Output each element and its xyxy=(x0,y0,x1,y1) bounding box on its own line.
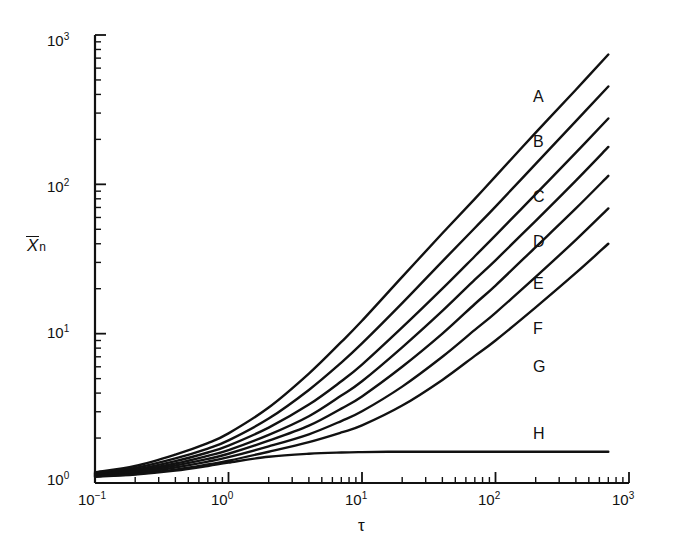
x-tick-label-0: 10−1 xyxy=(78,491,106,508)
y-axis-title-base: X xyxy=(26,236,39,255)
curve-label-A: A xyxy=(533,88,544,106)
curve-C xyxy=(95,118,608,473)
x-tick-label-3: 102 xyxy=(478,491,500,508)
curve-label-H: H xyxy=(533,425,545,443)
curve-label-C: C xyxy=(533,188,545,206)
y-tick-label-1: 101 xyxy=(47,324,69,341)
y-tick-label-3: 103 xyxy=(47,32,69,49)
y-axis-title-subscript: n xyxy=(39,240,46,254)
curve-label-G: G xyxy=(533,358,545,376)
y-tick-label-2: 102 xyxy=(47,178,69,195)
log-log-plot xyxy=(0,0,674,555)
x-axis-title: τ xyxy=(358,516,365,536)
curve-label-E: E xyxy=(533,275,544,293)
x-tick-label-1: 100 xyxy=(211,491,233,508)
curve-label-B: B xyxy=(533,133,544,151)
x-tick-label-2: 101 xyxy=(345,491,367,508)
chart-figure: Xn τ 10−1100101102103100101102103ABCDEFG… xyxy=(0,0,674,555)
x-tick-label-4: 103 xyxy=(612,491,634,508)
y-tick-label-0: 100 xyxy=(47,471,69,488)
curve-G xyxy=(95,244,608,476)
curve-label-D: D xyxy=(533,233,545,251)
curve-A xyxy=(95,55,608,473)
curve-F xyxy=(95,208,608,475)
y-axis-title: Xn xyxy=(26,236,46,256)
curve-label-F: F xyxy=(533,320,543,338)
